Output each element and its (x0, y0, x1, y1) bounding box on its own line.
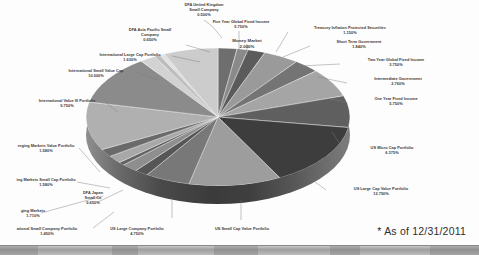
label-us-large-cap-value-portfolio: US Large Cap Value Portfolio 12.750% (328, 186, 434, 196)
label-short-term-government: Short Term Government 1.840% (311, 39, 407, 49)
label-international-value-iii-portfolio: International Value III Portfolio 9.750% (22, 98, 112, 108)
bar-segment (430, 246, 479, 255)
bar-segment (0, 246, 38, 255)
label-percent: 5.750% (198, 24, 284, 29)
label-percent: 0.650% (110, 37, 190, 42)
label-treasury-inflation-protected-securities: Treasury Inflation Protected Securities … (289, 25, 411, 35)
label-emerging-markets-value-portfolio: erging Markets Value Portfolio 1.580% (2, 143, 90, 153)
label-money-market: Money Market 2.000% (213, 38, 281, 50)
label-dfa-japan-small-co: DFA Japan Small Co 0.650% (68, 190, 118, 205)
label-percent: 1.630% (86, 57, 174, 62)
label-percent: 1.150% (289, 30, 411, 35)
label-international-small-value-cap: International Small Value Cap 10.000% (54, 68, 138, 78)
label-international-large-cap-portfolio: International Large Cap Portfolio 1.630% (86, 52, 174, 62)
label-one-year-fixed-income: One Year Fixed Income 5.750% (348, 96, 444, 106)
label-percent: 6.375% (347, 150, 437, 155)
label-percent: 9.750% (22, 103, 112, 108)
label-us-micro-cap-portfolio: US Micro Cap Portfolio 6.375% (347, 145, 437, 155)
label-percent: 1.450% (2, 231, 92, 236)
label-percent: 1.840% (311, 44, 407, 49)
label-dfa-asia-pacific-small-company: DFA Asia Pacific Small Company 0.650% (110, 27, 190, 42)
label-us-small-cap-value-portfolio: US Small Cap Value Portfolio (196, 226, 288, 231)
bar-segment (214, 246, 258, 255)
label-percent: 10.000% (54, 73, 138, 78)
label-international-small-company-portfolio: ational Small Company Portfolio 1.450% (2, 226, 92, 236)
label-emerging-markets-small-cap-portfolio: ing Markets Small Cap Portfolio 1.580% (2, 177, 90, 187)
label-name: US Small Cap Value Portfolio (196, 226, 288, 231)
label-percent: 2.760% (348, 81, 448, 86)
label-five-year-global-fixed-income: Five Year Global Fixed Income 5.750% (198, 19, 284, 29)
label-us-large-company-portfolio: US Large Company Portfolio 4.750% (93, 226, 181, 236)
bar-segment (112, 246, 138, 255)
label-percent: 0.650% (68, 200, 118, 205)
label-intermediate-government: Intermediate Government 2.760% (348, 76, 448, 86)
label-percent: 1.710% (2, 213, 64, 218)
label-percent: 5.750% (348, 101, 444, 106)
label-emerging-markets: ging Markets 1.710% (2, 208, 64, 218)
label-percent: 0.500% (160, 12, 248, 17)
pie-chart-screenshot: DFA United Kingdom Small Company 0.500% … (0, 0, 479, 255)
label-percent: 1.580% (2, 182, 90, 187)
label-percent: 1.580% (2, 148, 90, 153)
label-two-year-global-fixed-income: Two Year Global Fixed Income 3.750% (341, 57, 451, 67)
as-of-date-footnote: * As of 12/31/2011 (377, 225, 466, 237)
label-percent: 4.750% (93, 231, 181, 236)
bar-segment (330, 246, 360, 255)
scanned-page-edge-bar (0, 245, 479, 255)
label-percent: 2.000% (213, 44, 281, 50)
label-percent: 12.750% (328, 191, 434, 196)
label-dfa-united-kingdom-small-company: DFA United Kingdom Small Company 0.500% (160, 2, 248, 17)
label-percent: 3.750% (341, 62, 451, 67)
